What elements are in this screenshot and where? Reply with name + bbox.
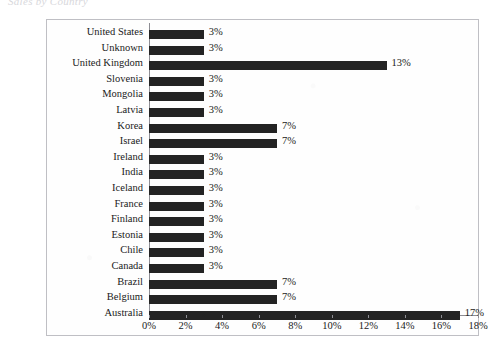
category-label: United Kingdom (72, 57, 143, 68)
bar-value-label: 3% (209, 26, 223, 37)
x-tick-label: 0% (142, 320, 156, 331)
x-tick-label: 6% (252, 320, 266, 331)
chart-frame: United States3%Unknown3%United Kingdom13… (46, 19, 479, 336)
bar-row: Estonia3% (149, 230, 478, 246)
x-tick-label: 18% (468, 320, 487, 331)
bar-value-label: 3% (209, 213, 223, 224)
bar (149, 295, 277, 304)
bar-row: Iceland3% (149, 183, 478, 199)
bar-value-label: 3% (209, 244, 223, 255)
x-tick-label: 4% (215, 320, 229, 331)
category-label: India (121, 166, 143, 177)
bar-value-label: 7% (282, 135, 296, 146)
x-tick-mark (441, 315, 442, 318)
bar (149, 264, 204, 273)
bar-value-label: 3% (209, 198, 223, 209)
bar-value-label: 3% (209, 182, 223, 193)
document-faint-title: Sales by Country (8, 0, 88, 7)
bar (149, 248, 204, 257)
category-label: Australia (105, 307, 144, 318)
bar-row: Mongolia3% (149, 89, 478, 105)
category-label: Unknown (102, 42, 143, 53)
bar-value-label: 3% (209, 42, 223, 53)
x-tick-mark (222, 315, 223, 318)
bar (149, 124, 277, 133)
bar-value-label: 3% (209, 166, 223, 177)
category-label: Finland (111, 213, 143, 224)
bar (149, 233, 204, 242)
x-tick-label: 2% (179, 320, 193, 331)
x-tick-label: 12% (359, 320, 378, 331)
bar-row: France3% (149, 199, 478, 215)
category-label: United States (87, 26, 143, 37)
bar-row: Chile3% (149, 245, 478, 261)
bar-row: Latvia3% (149, 105, 478, 121)
bar (149, 77, 204, 86)
category-label: Iceland (112, 182, 143, 193)
bar (149, 217, 204, 226)
x-tick-mark (478, 315, 479, 318)
bar (149, 139, 277, 148)
bar-value-label: 7% (282, 276, 296, 287)
bar-row: United States3% (149, 27, 478, 43)
x-tick-mark (259, 315, 260, 318)
x-tick-label: 8% (288, 320, 302, 331)
x-tick-mark (149, 315, 150, 318)
bar-value-label: 3% (209, 151, 223, 162)
x-tick-label: 14% (395, 320, 414, 331)
category-label: Brazil (117, 276, 143, 287)
bar-value-label: 3% (209, 229, 223, 240)
category-label: Estonia (112, 229, 144, 240)
bar-row: Ireland3% (149, 152, 478, 168)
bar-row: Finland3% (149, 214, 478, 230)
bar-row: India3% (149, 167, 478, 183)
bar-row: United Kingdom13% (149, 58, 478, 74)
x-tick-label: 16% (432, 320, 451, 331)
x-tick-mark (186, 315, 187, 318)
x-tick-label: 10% (322, 320, 341, 331)
category-label: Latvia (116, 104, 143, 115)
bar (149, 30, 204, 39)
category-label: Chile (120, 244, 143, 255)
category-label: Canada (112, 260, 144, 271)
bar-value-label: 3% (209, 260, 223, 271)
category-label: Belgium (107, 291, 143, 302)
bar (149, 155, 204, 164)
bar (149, 202, 204, 211)
bar (149, 92, 204, 101)
bar-value-label: 7% (282, 291, 296, 302)
bar (149, 186, 204, 195)
bar-row: Unknown3% (149, 43, 478, 59)
bar-row: Belgium7% (149, 292, 478, 308)
bar-row: Brazil7% (149, 277, 478, 293)
bar-value-label: 3% (209, 104, 223, 115)
x-tick-mark (332, 315, 333, 318)
x-tick-mark (405, 315, 406, 318)
bar-value-label: 3% (209, 88, 223, 99)
bar-row: Canada3% (149, 261, 478, 277)
bar (149, 280, 277, 289)
bar-value-label: 7% (282, 120, 296, 131)
category-label: Mongolia (102, 88, 143, 99)
category-label: Israel (120, 135, 143, 146)
bar (149, 170, 204, 179)
category-label: Slovenia (106, 73, 143, 84)
category-label: Ireland (113, 151, 143, 162)
bar (149, 61, 387, 70)
category-label: France (114, 198, 143, 209)
x-tick-mark (295, 315, 296, 318)
x-tick-mark (368, 315, 369, 318)
bar-row: Slovenia3% (149, 74, 478, 90)
bar-row: Korea7% (149, 121, 478, 137)
bar-value-label: 3% (209, 73, 223, 84)
bar (149, 311, 460, 320)
bar-row: Israel7% (149, 136, 478, 152)
bar-value-label: 13% (392, 57, 411, 68)
bar (149, 46, 204, 55)
bar-value-label: 17% (465, 307, 484, 318)
bar-row: Australia17% (149, 308, 478, 324)
category-label: Korea (117, 120, 143, 131)
plot-area: United States3%Unknown3%United Kingdom13… (149, 23, 478, 315)
bar (149, 108, 204, 117)
